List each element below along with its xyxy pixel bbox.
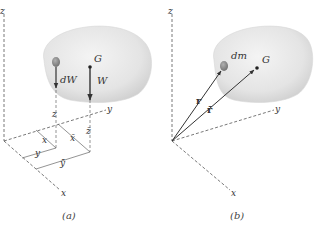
caption-b: (b): [230, 210, 244, 221]
centroid-diagram: z y x dW G W z x y z̄ x̄ ȳ (a) z y: [0, 0, 315, 233]
z-axis-label: z: [167, 6, 173, 16]
x-axis-label: x: [231, 188, 236, 198]
panel-b: z y x dm G r r̄ (b): [167, 6, 313, 221]
mass-element-icon: [220, 61, 228, 71]
elem-y-label: y: [34, 148, 41, 158]
dm-label: dm: [231, 50, 247, 61]
z-axis-label: z: [0, 6, 5, 16]
bar-z-label: z̄: [85, 126, 91, 136]
r-label: r: [196, 95, 202, 106]
centroid-dot: [255, 66, 259, 70]
r-vector: [172, 71, 221, 141]
elem-z-label: z: [51, 109, 57, 119]
x-axis-label: x: [61, 188, 66, 198]
bar-x-label: x̄: [70, 133, 75, 143]
body-blob: [44, 26, 152, 102]
r-bar-vector: [172, 70, 254, 141]
y-axis-label: y: [106, 104, 113, 114]
W-label: W: [97, 75, 108, 86]
x-axis: [4, 141, 60, 190]
caption-a: (a): [62, 210, 76, 221]
x-axis: [172, 141, 230, 190]
y-axis: [172, 110, 274, 141]
mass-element-icon: [52, 57, 60, 67]
y-axis-label: y: [274, 104, 281, 114]
dW-label: dW: [60, 74, 77, 85]
bar-y-label: ȳ: [59, 158, 66, 168]
panel-a: z y x dW G W z x y z̄ x̄ ȳ (a): [0, 6, 152, 221]
G-label: G: [262, 54, 270, 65]
G-label: G: [94, 53, 102, 64]
elem-x-label: x: [42, 135, 47, 145]
r-bar-label: r̄: [207, 104, 213, 115]
